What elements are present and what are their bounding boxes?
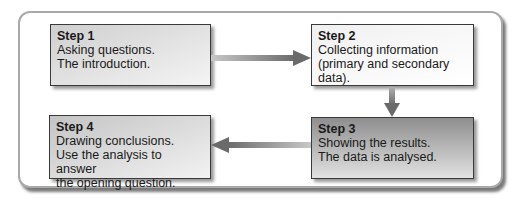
step-2-line-1: Collecting information [318, 43, 467, 57]
step-1-title: Step 1 [57, 29, 204, 43]
arrow-down-icon [382, 87, 402, 117]
step-4-line-2: Use the analysis to answer [56, 148, 204, 176]
arrow-left-icon [211, 135, 311, 155]
step-3-title: Step 3 [318, 122, 467, 136]
step-2-line-2: (primary and secondary data). [318, 57, 467, 85]
step-2-title: Step 2 [318, 29, 467, 43]
step-3-box: Step 3 Showing the results. The data is … [311, 117, 474, 179]
step-1-line-1: Asking questions. [57, 43, 204, 57]
step-4-line-1: Drawing conclusions. [56, 134, 204, 148]
step-1-box: Step 1 Asking questions. The introductio… [50, 24, 211, 86]
step-3-line-2: The data is analysed. [318, 150, 467, 164]
step-2-box: Step 2 Collecting information (primary a… [311, 24, 474, 86]
arrow-right-icon [211, 48, 311, 68]
step-4-box: Step 4 Drawing conclusions. Use the anal… [49, 115, 211, 179]
step-4-title: Step 4 [56, 120, 204, 134]
step-3-line-1: Showing the results. [318, 136, 467, 150]
step-4-line-3: the opening question. [56, 176, 204, 190]
step-1-line-2: The introduction. [57, 57, 204, 71]
